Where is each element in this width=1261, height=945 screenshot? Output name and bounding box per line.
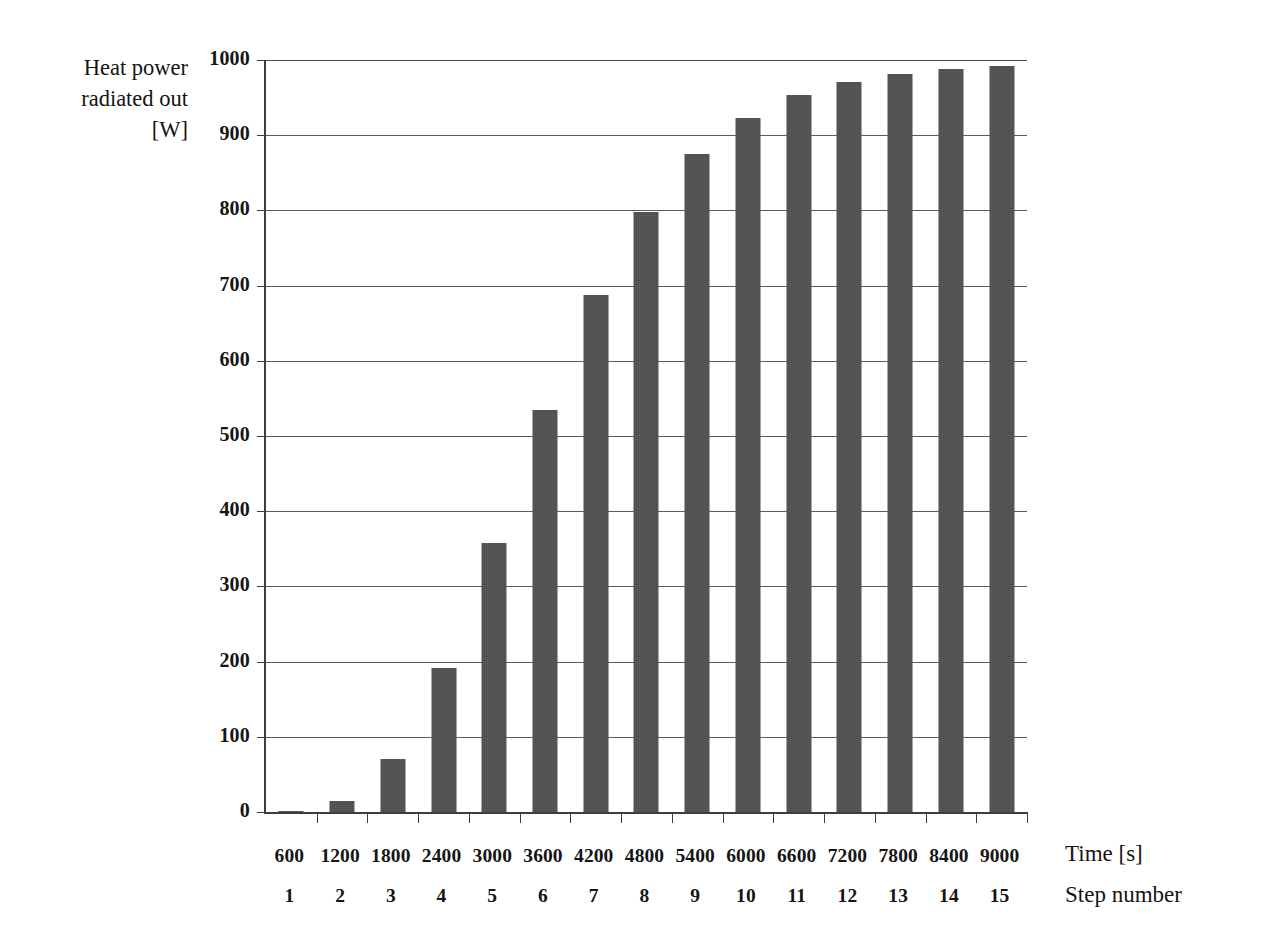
x-tick-label-time: 6600 bbox=[771, 845, 822, 867]
bar-slot bbox=[520, 60, 571, 812]
bar-slot bbox=[976, 60, 1027, 812]
x-tick-label-step: 12 bbox=[822, 885, 873, 907]
x-tick-mark bbox=[317, 812, 318, 823]
x-tick-label-time: 4800 bbox=[619, 845, 670, 867]
x-tick-mark bbox=[621, 812, 622, 823]
bar-slot bbox=[266, 60, 317, 812]
x-tick-label-time: 600 bbox=[264, 845, 315, 867]
x-tick-label-time: 6000 bbox=[721, 845, 772, 867]
bar bbox=[431, 668, 456, 812]
bar-chart-figure: Heat power radiated out [W] 010020030040… bbox=[0, 0, 1261, 945]
x-axis-title-step: Step number bbox=[1065, 882, 1182, 908]
y-axis-title: Heat power radiated out [W] bbox=[40, 52, 188, 145]
x-axis-time-labels: 6001200180024003000360042004800540060006… bbox=[264, 845, 1025, 873]
x-tick-mark bbox=[824, 812, 825, 823]
x-tick-mark bbox=[1027, 812, 1028, 823]
bar bbox=[330, 801, 355, 812]
bar bbox=[279, 811, 304, 813]
y-tick-label: 500 bbox=[188, 423, 250, 446]
x-axis-step-labels: 123456789101112131415 bbox=[264, 885, 1025, 913]
x-tick-label-time: 2400 bbox=[416, 845, 467, 867]
x-tick-label-step: 14 bbox=[924, 885, 975, 907]
plot-area: 01002003004005006007008009001000 bbox=[264, 60, 1027, 814]
x-tick-label-step: 4 bbox=[416, 885, 467, 907]
x-tick-label-step: 13 bbox=[873, 885, 924, 907]
y-tick-mark bbox=[257, 210, 266, 211]
x-axis-title-time: Time [s] bbox=[1065, 841, 1143, 867]
bar-slot bbox=[317, 60, 368, 812]
y-tick-label: 1000 bbox=[188, 47, 250, 70]
x-tick-mark bbox=[570, 812, 571, 823]
y-tick-label: 900 bbox=[188, 122, 250, 145]
bar bbox=[482, 543, 507, 812]
y-tick-mark bbox=[257, 361, 266, 362]
y-tick-label: 300 bbox=[188, 573, 250, 596]
x-tick-mark bbox=[672, 812, 673, 823]
bar bbox=[634, 212, 659, 812]
bar-series bbox=[266, 60, 1027, 812]
x-tick-label-time: 9000 bbox=[974, 845, 1025, 867]
bar bbox=[380, 759, 405, 812]
x-tick-mark bbox=[875, 812, 876, 823]
x-tick-label-step: 10 bbox=[721, 885, 772, 907]
x-tick-label-time: 1200 bbox=[315, 845, 366, 867]
y-tick-label: 400 bbox=[188, 498, 250, 521]
x-tick-label-time: 4200 bbox=[568, 845, 619, 867]
bar bbox=[888, 74, 913, 812]
bar bbox=[583, 295, 608, 812]
bar-slot bbox=[469, 60, 520, 812]
bar-slot bbox=[621, 60, 672, 812]
bar bbox=[989, 66, 1014, 812]
x-tick-mark bbox=[367, 812, 368, 823]
y-tick-mark bbox=[257, 436, 266, 437]
x-tick-label-step: 8 bbox=[619, 885, 670, 907]
y-tick-label: 100 bbox=[188, 724, 250, 747]
x-tick-mark bbox=[976, 812, 977, 823]
y-tick-mark bbox=[257, 662, 266, 663]
x-tick-label-step: 3 bbox=[365, 885, 416, 907]
x-tick-mark bbox=[773, 812, 774, 823]
y-tick-mark bbox=[257, 586, 266, 587]
y-tick-mark bbox=[257, 60, 266, 61]
x-tick-label-step: 1 bbox=[264, 885, 315, 907]
y-tick-label: 600 bbox=[188, 348, 250, 371]
bar-slot bbox=[672, 60, 723, 812]
bar-slot bbox=[926, 60, 977, 812]
bar bbox=[837, 82, 862, 812]
x-tick-label-step: 6 bbox=[518, 885, 569, 907]
x-tick-label-time: 7800 bbox=[873, 845, 924, 867]
bar-slot bbox=[875, 60, 926, 812]
y-tick-label: 200 bbox=[188, 649, 250, 672]
y-axis-title-line-1: Heat power bbox=[40, 52, 188, 83]
x-tick-label-time: 3000 bbox=[467, 845, 518, 867]
x-tick-label-step: 7 bbox=[568, 885, 619, 907]
x-tick-label-time: 1800 bbox=[365, 845, 416, 867]
y-tick-mark bbox=[257, 737, 266, 738]
x-tick-mark bbox=[418, 812, 419, 823]
y-axis-title-line-3: [W] bbox=[40, 114, 188, 145]
x-tick-label-step: 5 bbox=[467, 885, 518, 907]
y-tick-mark bbox=[257, 135, 266, 136]
x-tick-label-time: 8400 bbox=[924, 845, 975, 867]
y-tick-mark bbox=[257, 812, 266, 813]
y-axis-title-line-2: radiated out bbox=[40, 83, 188, 114]
bar bbox=[533, 410, 558, 812]
x-tick-mark bbox=[723, 812, 724, 823]
x-tick-label-step: 2 bbox=[315, 885, 366, 907]
bar bbox=[685, 154, 710, 812]
bar bbox=[735, 118, 760, 812]
x-tick-label-step: 11 bbox=[771, 885, 822, 907]
y-tick-label: 700 bbox=[188, 273, 250, 296]
x-tick-label-time: 3600 bbox=[518, 845, 569, 867]
x-tick-label-time: 7200 bbox=[822, 845, 873, 867]
bar-slot bbox=[418, 60, 469, 812]
x-tick-label-step: 9 bbox=[670, 885, 721, 907]
bar bbox=[938, 69, 963, 812]
bar-slot bbox=[773, 60, 824, 812]
bar-slot bbox=[824, 60, 875, 812]
bar bbox=[786, 95, 811, 812]
bar-slot bbox=[367, 60, 418, 812]
y-tick-label: 800 bbox=[188, 197, 250, 220]
bar-slot bbox=[723, 60, 774, 812]
bar-slot bbox=[570, 60, 621, 812]
